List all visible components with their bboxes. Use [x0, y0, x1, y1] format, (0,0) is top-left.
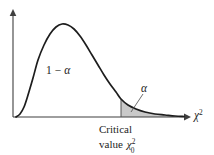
body-area-one: 1 [46, 64, 52, 76]
x-axis-label: χ2 [193, 108, 203, 123]
caption-chi-superscript: 2 [132, 137, 136, 146]
body-area-alpha: α [64, 64, 71, 76]
body-area-minus: − [55, 64, 62, 76]
caption-line-2: valueχ20 [99, 137, 136, 155]
chi-square-chart: 1−α α χ2 Critical valueχ20 [0, 0, 214, 155]
tail-area-label: α [141, 82, 148, 94]
chi-square-density-curve [16, 24, 184, 117]
caption-chi-subscript: 0 [131, 146, 135, 155]
x-axis-label-superscript: 2 [199, 108, 203, 117]
caption-value-word: value [99, 138, 123, 150]
caption-line-1: Critical [99, 123, 132, 135]
body-area-label: 1−α [46, 64, 71, 76]
y-axis-arrow-icon [10, 9, 17, 16]
chi-square-figure: 1−α α χ2 Critical valueχ20 [0, 0, 214, 155]
x-axis-arrow-icon [184, 114, 191, 121]
